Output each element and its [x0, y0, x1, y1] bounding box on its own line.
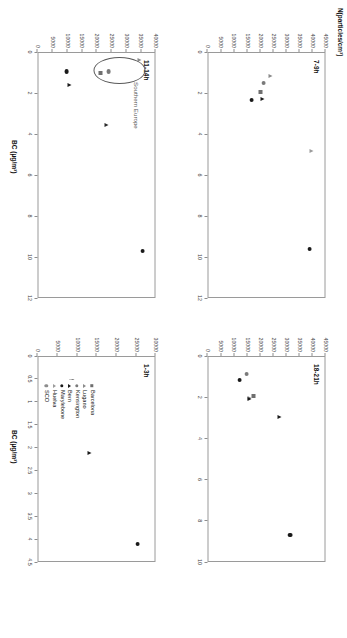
y-tick-label: 20000: [113, 310, 119, 352]
circle-marker-icon: [43, 383, 49, 388]
panel-1-3h: 1-3h05000100001500020000250003000000.511…: [0, 0, 347, 638]
x-tick-mark: [34, 493, 37, 494]
legend-item-label: Kensington: [73, 390, 80, 418]
series-legend: BarcelonaLuganoKensingtonBernMaryleboneH…: [40, 380, 97, 422]
triangle-marker-icon: [51, 383, 57, 388]
y-tick-mark: [76, 353, 77, 356]
x-tick-label: 4: [27, 527, 33, 551]
triangle-marker-icon: [81, 383, 87, 388]
legend-item-kensington[interactable]: Kensington: [73, 383, 80, 419]
y-tick-label: 15000: [93, 310, 99, 352]
x-tick-mark: [34, 470, 37, 471]
legend-item-label: Barcelona: [88, 390, 95, 415]
scatter-figure: N(particles/cm³) BC (µg/m³) BC (µg/m³) 7…: [0, 0, 347, 638]
y-tick-label: 25000: [133, 310, 139, 352]
data-point-huelva: [87, 451, 91, 455]
x-tick-label: 2: [27, 436, 33, 460]
x-tick-label: 1.5: [27, 413, 33, 437]
x-tick-label: 2.5: [27, 458, 33, 482]
x-tick-mark: [34, 401, 37, 402]
y-tick-label: 5000: [54, 310, 60, 352]
x-tick-mark: [34, 447, 37, 448]
legend-item-bern[interactable]: Bern: [65, 383, 72, 419]
circle-marker-icon: [58, 383, 64, 388]
x-tick-label: 3: [27, 481, 33, 505]
x-tick-mark: [34, 539, 37, 540]
legend-item-label: Huelva: [50, 390, 57, 407]
x-tick-mark: [34, 516, 37, 517]
legend-item-label: Lugano: [80, 390, 87, 409]
y-tick-label: 0: [34, 310, 40, 352]
legend-item-label: Bern: [65, 390, 72, 402]
y-tick-label: 10000: [74, 310, 80, 352]
x-tick-mark: [34, 356, 37, 357]
x-tick-label: 3.5: [27, 504, 33, 528]
data-point-sco: [135, 542, 139, 546]
y-tick-mark: [115, 353, 116, 356]
x-tick-mark: [34, 424, 37, 425]
y-tick-mark: [155, 353, 156, 356]
legend-item-barcelona[interactable]: Barcelona: [88, 383, 95, 419]
y-tick-label: 30000: [152, 310, 158, 352]
legend-item-marylebone[interactable]: Marylebone: [58, 383, 65, 419]
legend-item-huelva[interactable]: Huelva: [50, 383, 57, 419]
legend-item-label: Marylebone: [58, 390, 65, 419]
x-tick-label: 0.5: [27, 367, 33, 391]
x-tick-mark: [34, 378, 37, 379]
y-tick-mark: [96, 353, 97, 356]
y-tick-mark: [135, 353, 136, 356]
panel-1-3h-title: 1-3h: [142, 364, 149, 378]
triangle-marker-icon: [66, 383, 72, 388]
legend-item-sco[interactable]: SCO: [42, 383, 49, 419]
x-tick-label: 1: [27, 390, 33, 414]
x-tick-mark: [34, 562, 37, 563]
x-tick-label: 4.5: [27, 550, 33, 574]
legend-item-lugano[interactable]: Lugano: [80, 383, 87, 419]
legend-item-label: SCO: [42, 390, 49, 402]
square-marker-icon: [89, 383, 95, 388]
y-tick-mark: [56, 353, 57, 356]
x-tick-label: 0: [27, 344, 33, 368]
figure-rotation-wrapper: N(particles/cm³) BC (µg/m³) BC (µg/m³) 7…: [0, 0, 347, 638]
circle-marker-icon: [73, 383, 79, 388]
